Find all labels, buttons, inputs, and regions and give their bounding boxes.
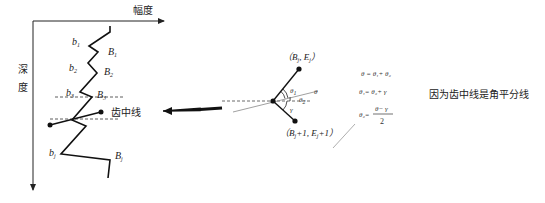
label-theta2: θ2: [299, 96, 305, 105]
label-theta1: θ1: [290, 87, 296, 96]
label-b3: b3: [66, 87, 74, 99]
arc-theta1-inner: [281, 92, 285, 99]
label-B1: B1: [108, 46, 117, 58]
bisector-note: 因为齿中线是角平分线: [429, 88, 529, 100]
segment-top: [273, 69, 299, 101]
pointer-arrow-shaft: [200, 108, 222, 110]
midline-label: 齿中线: [111, 106, 141, 118]
label-gamma: γ: [290, 106, 293, 114]
formula-3-lhs: θ₂=: [359, 111, 370, 119]
bottom-point-label: （Bj+1, Ej+1）: [280, 128, 338, 139]
formula-3-numerator: θ− γ: [375, 105, 388, 113]
x-axis-label: 幅度: [133, 4, 153, 16]
y-axis-label-1: 深: [18, 64, 28, 75]
label-bj: bj: [49, 147, 56, 159]
midline-endpoint-right: [99, 110, 104, 115]
arrow-head-icon: [163, 107, 172, 115]
vertex-point: [270, 98, 275, 103]
label-theta: θ: [314, 88, 318, 96]
top-point: [296, 66, 301, 71]
midline-endpoint-left: [48, 123, 53, 128]
arc-gamma: [283, 101, 287, 110]
midline-segment: [50, 112, 101, 125]
formula-2: θ₁= θ₂+ γ: [359, 88, 387, 96]
label-b2: b2: [69, 62, 77, 74]
y-axis-label-2: 度: [18, 81, 28, 93]
top-point-label: （Bj, Ej）: [283, 52, 320, 63]
label-Bj: Bj: [115, 150, 123, 162]
label-B3: B3: [97, 89, 106, 101]
tooth-profile: [61, 26, 110, 178]
label-b1: b1: [72, 36, 80, 48]
formulas: θ = θ₁+ θ₂ θ₁= θ₂+ γ θ₂= θ− γ 2: [359, 70, 393, 126]
angle-detail: θ1 θ2 θ γ （Bj, Ej） （Bj+1, Ej+1）: [222, 52, 338, 139]
diagram-canvas: 幅度 深 度 齿中线 b1 b2 b3 bj B1 B2 B3 Bj: [0, 0, 545, 203]
bottom-point: [292, 118, 297, 123]
arc-theta1-outer: [283, 89, 288, 98]
label-B2: B2: [104, 66, 113, 78]
formula-3-denominator: 2: [380, 117, 384, 126]
formula-1: θ = θ₁+ θ₂: [361, 70, 391, 78]
